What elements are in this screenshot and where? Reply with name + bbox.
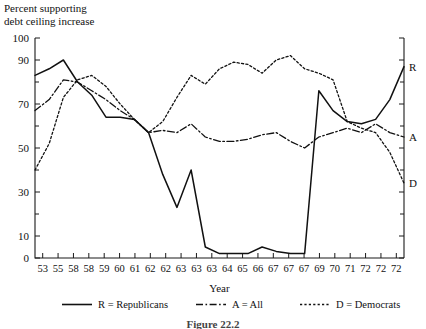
svg-text:72: 72: [376, 263, 387, 274]
svg-text:A: A: [409, 131, 417, 143]
line-chart: 0103050709010053555858596061626263636364…: [0, 0, 426, 329]
svg-text:67: 67: [268, 263, 279, 274]
chart-series: [35, 56, 404, 254]
svg-text:30: 30: [18, 186, 30, 198]
figure-caption: Figure 22.2: [0, 318, 426, 329]
tick-labels: 0103050709010053555858596061626263636364…: [13, 32, 402, 274]
svg-text:70: 70: [330, 263, 341, 274]
svg-text:63: 63: [191, 263, 202, 274]
svg-text:A = All: A = All: [232, 299, 263, 310]
svg-text:100: 100: [13, 32, 30, 44]
svg-text:90: 90: [18, 54, 30, 66]
svg-text:D: D: [409, 177, 417, 189]
svg-text:63: 63: [176, 263, 187, 274]
svg-text:60: 60: [114, 263, 125, 274]
svg-text:R: R: [409, 61, 417, 73]
svg-text:67: 67: [299, 263, 310, 274]
svg-text:58: 58: [84, 263, 95, 274]
svg-text:65: 65: [237, 263, 248, 274]
chart-legend: R = RepublicansA = AllD = Democrats: [62, 299, 400, 310]
svg-text:R = Republicans: R = Republicans: [98, 299, 168, 310]
svg-text:63: 63: [207, 263, 218, 274]
svg-text:70: 70: [18, 98, 30, 110]
svg-text:72: 72: [360, 263, 371, 274]
x-axis-title: Year: [209, 282, 230, 294]
svg-text:D = Democrats: D = Democrats: [336, 299, 400, 310]
svg-text:64: 64: [222, 263, 233, 274]
svg-text:62: 62: [145, 263, 156, 274]
svg-text:67: 67: [283, 263, 294, 274]
svg-text:62: 62: [160, 263, 171, 274]
svg-text:69: 69: [314, 263, 325, 274]
svg-text:0: 0: [24, 252, 30, 264]
svg-text:66: 66: [253, 263, 264, 274]
svg-text:58: 58: [68, 263, 79, 274]
svg-text:61: 61: [130, 263, 141, 274]
svg-text:72: 72: [391, 263, 402, 274]
figure-container: Percent supporting debt ceiling increase…: [0, 0, 426, 329]
svg-text:55: 55: [53, 263, 64, 274]
svg-text:59: 59: [99, 263, 110, 274]
svg-text:53: 53: [37, 263, 48, 274]
series-end-labels: RAD: [409, 61, 417, 190]
svg-text:71: 71: [345, 263, 356, 274]
svg-text:10: 10: [18, 230, 30, 242]
chart-axes: [35, 38, 404, 258]
svg-text:50: 50: [18, 142, 30, 154]
svg-text:Year: Year: [209, 282, 230, 294]
